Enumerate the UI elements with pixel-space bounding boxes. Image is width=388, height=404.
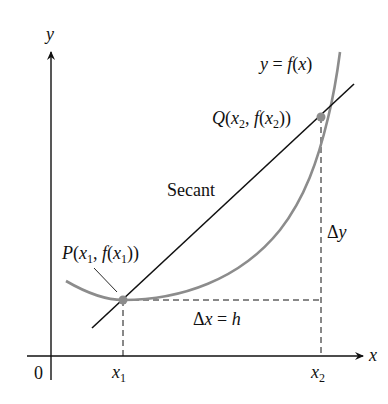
delta-y-label: Δy [327, 222, 347, 242]
delta-x-label: Δx = h [193, 309, 241, 329]
origin-label: 0 [34, 363, 43, 383]
x2-tick-label: x2 [310, 362, 325, 385]
point-q-label: Q(x2, f(x2)) [212, 108, 291, 131]
y-axis-label: y [44, 24, 54, 44]
point-p-label: P(x1, f(x1)) [61, 243, 139, 266]
p-leader-line [94, 268, 117, 292]
x-axis-label: x [368, 345, 377, 365]
secant-label: Secant [167, 180, 215, 200]
curve-label: y = f(x) [258, 54, 312, 75]
secant-diagram: y x 0 x1 x2 y = f(x) Secant Q(x2, f(x2))… [0, 0, 388, 404]
point-p [119, 296, 128, 305]
x1-tick-label: x1 [111, 362, 126, 385]
point-q [317, 113, 326, 122]
